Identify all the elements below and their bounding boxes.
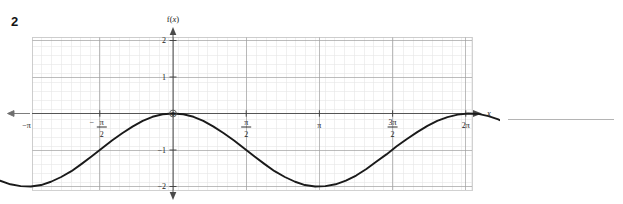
x-axis-title: x bbox=[486, 108, 491, 118]
x-tick-den-1: 2 bbox=[100, 130, 104, 139]
x-tick-num-4: 3π bbox=[389, 118, 397, 127]
x-tick-num-1: π bbox=[100, 118, 104, 127]
x-tick-label-0: −π bbox=[22, 121, 31, 130]
y-tick-label-1: 1 bbox=[162, 73, 166, 82]
x-tick-sign-1: − bbox=[90, 118, 95, 127]
left-arrow-icon bbox=[8, 111, 31, 117]
x-tick-label-3: π bbox=[317, 121, 321, 130]
y-tick-label-origin: 0 bbox=[171, 110, 175, 118]
x-tick-den-2: 2 bbox=[244, 130, 248, 139]
y-tick-label-0: 2 bbox=[162, 36, 166, 45]
y-tick-label-3: −1 bbox=[157, 146, 166, 155]
x-tick-den-4: 2 bbox=[391, 130, 395, 139]
graph-figure: −π−π2π2π3π22π210−1−2 f(x) x bbox=[0, 0, 500, 204]
cosine-graph-svg: −π−π2π2π3π22π210−1−2 f(x) x bbox=[0, 0, 500, 204]
answer-blank-line[interactable] bbox=[508, 119, 614, 120]
y-tick-label-4: −2 bbox=[157, 182, 166, 191]
y-axis-title: f(x) bbox=[167, 14, 179, 24]
x-tick-num-2: π bbox=[244, 118, 248, 127]
x-tick-label-5: 2π bbox=[462, 121, 470, 130]
